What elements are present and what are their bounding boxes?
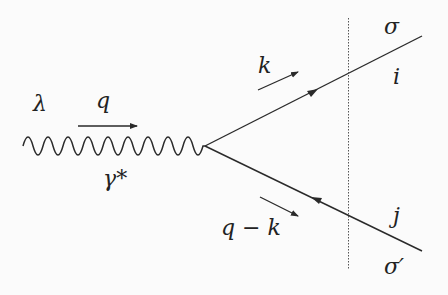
label-i: i [393, 66, 400, 88]
label-lambda: λ [33, 93, 47, 115]
label-sigma-prime: σ′ [384, 256, 404, 278]
antiquark-line-arrowhead [311, 197, 322, 204]
photon-propagator [23, 137, 205, 155]
label-q-minus-k: q − k [221, 217, 281, 239]
feynman-diagram: λ q γ* k q − k σ σ′ i j [0, 0, 448, 295]
antiquark-momentum-arrow [260, 197, 298, 216]
label-q: q [96, 90, 110, 112]
label-j: j [393, 205, 400, 227]
label-sigma: σ [384, 16, 399, 38]
label-gamma-star: γ* [103, 168, 127, 190]
label-k: k [258, 55, 271, 77]
diagram-canvas [0, 0, 448, 295]
quark-line-arrowhead [307, 89, 318, 97]
